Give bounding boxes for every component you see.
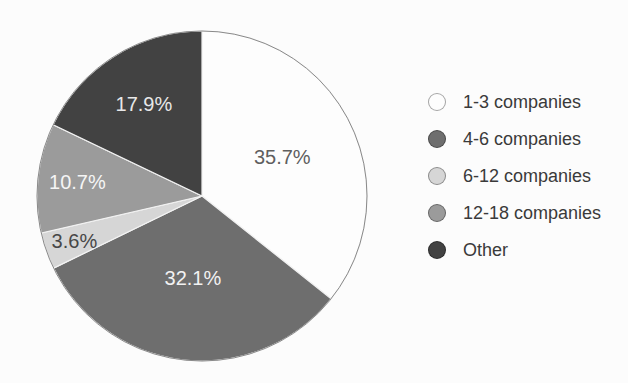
- legend-marker-other: [428, 241, 446, 259]
- slice-value-label-6-12-companies: 3.6%: [52, 230, 98, 252]
- legend-marker-1-3-companies: [428, 93, 446, 111]
- legend-label-other: Other: [463, 241, 508, 259]
- slice-value-label-1-3-companies: 35.7%: [254, 146, 311, 168]
- legend-label-6-12-companies: 6-12 companies: [463, 167, 591, 185]
- legend-item-12-18-companies: 12-18 companies: [428, 204, 601, 222]
- pie-chart-figure: 35.7%32.1%3.6%10.7%17.9% 1-3 companies4-…: [0, 0, 628, 383]
- slice-value-label-12-18-companies: 10.7%: [49, 171, 106, 193]
- legend-label-1-3-companies: 1-3 companies: [463, 93, 581, 111]
- legend-marker-6-12-companies: [428, 167, 446, 185]
- legend-item-1-3-companies: 1-3 companies: [428, 93, 601, 111]
- slice-value-label-4-6-companies: 32.1%: [165, 267, 222, 289]
- legend-item-4-6-companies: 4-6 companies: [428, 130, 601, 148]
- slice-value-label-other: 17.9%: [116, 93, 173, 115]
- legend-item-other: Other: [428, 241, 601, 259]
- legend: 1-3 companies4-6 companies6-12 companies…: [428, 93, 601, 259]
- legend-marker-4-6-companies: [428, 130, 446, 148]
- legend-item-6-12-companies: 6-12 companies: [428, 167, 601, 185]
- legend-label-12-18-companies: 12-18 companies: [463, 204, 601, 222]
- legend-marker-12-18-companies: [428, 204, 446, 222]
- legend-label-4-6-companies: 4-6 companies: [463, 130, 581, 148]
